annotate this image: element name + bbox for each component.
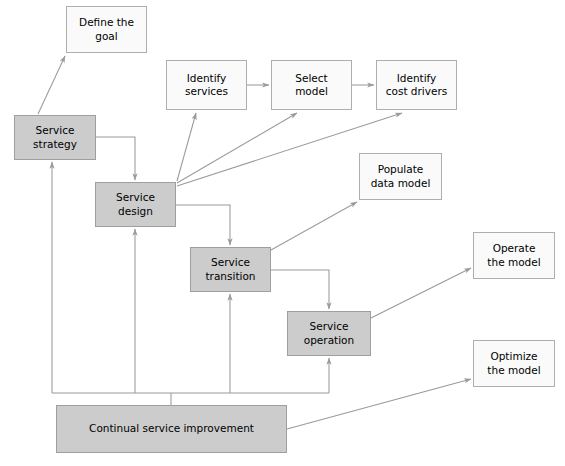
edge-service-transition-to-populate-data-model	[271, 202, 357, 250]
node-label: Service design	[116, 191, 155, 218]
node-label: Optimize the model	[487, 350, 540, 377]
edge-service-strategy-to-define-the-goal	[38, 56, 65, 114]
node-service-operation[interactable]: Service operation	[287, 311, 371, 356]
node-select-model[interactable]: Select model	[271, 60, 352, 110]
node-label: Select model	[295, 72, 328, 99]
edge-service-design-to-select-model	[177, 113, 297, 183]
node-populate-data-model[interactable]: Populate data model	[359, 153, 442, 200]
node-identify-cost-drivers[interactable]: Identify cost drivers	[376, 60, 457, 110]
node-label: Populate data model	[371, 163, 431, 190]
node-label: Service strategy	[33, 124, 77, 151]
node-label: Identify cost drivers	[386, 72, 447, 99]
edge-continual-service-improvement-to-optimize-the-model	[287, 379, 471, 429]
node-operate-the-model[interactable]: Operate the model	[473, 232, 555, 279]
node-continual-service-improvement[interactable]: Continual service improvement	[56, 405, 287, 453]
node-label: Service operation	[304, 320, 354, 347]
edge-service-design-to-service-transition	[176, 205, 230, 245]
edge-service-design-to-identify-services	[177, 113, 196, 181]
node-label: Define the goal	[79, 16, 134, 43]
node-service-design[interactable]: Service design	[95, 182, 176, 227]
node-service-strategy[interactable]: Service strategy	[14, 115, 96, 160]
node-label: Service transition	[205, 256, 255, 283]
node-label: Identify services	[185, 72, 228, 99]
node-identify-services[interactable]: Identify services	[166, 60, 247, 110]
node-label: Operate the model	[487, 242, 540, 269]
node-define-the-goal[interactable]: Define the goal	[66, 6, 147, 53]
node-label: Continual service improvement	[89, 422, 254, 435]
service-lifecycle-diagram: Define the goal Identify services Select…	[0, 0, 565, 466]
node-optimize-the-model[interactable]: Optimize the model	[473, 340, 555, 387]
node-service-transition[interactable]: Service transition	[190, 247, 271, 292]
edge-service-operation-to-operate-the-model	[371, 268, 471, 318]
edge-service-strategy-to-service-design	[96, 137, 135, 180]
edge-service-transition-to-service-operation	[271, 270, 329, 309]
